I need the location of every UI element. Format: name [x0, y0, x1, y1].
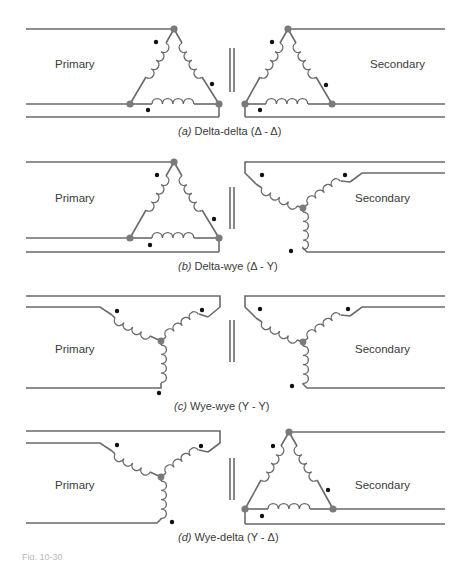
- polarity-dot: [200, 308, 204, 312]
- secondary-wye-winding: [245, 296, 445, 388]
- polarity-dot: [170, 520, 174, 524]
- polarity-dot: [115, 443, 119, 447]
- polarity-dot: [115, 309, 119, 313]
- polarity-dot: [343, 173, 347, 177]
- polarity-dot: [326, 488, 330, 492]
- polarity-dot: [154, 40, 158, 44]
- caption-tag: (b): [178, 260, 191, 272]
- transformer-core: [230, 48, 234, 92]
- panel-a-delta-delta: [26, 25, 445, 117]
- caption-d: (d) Wye-delta (Y - Δ): [178, 531, 279, 543]
- polarity-dot: [146, 108, 150, 112]
- caption-b: (b) Delta-wye (Δ - Y): [178, 260, 278, 272]
- transformer-core: [230, 458, 234, 500]
- caption-text: Wye-delta (Y - Δ): [195, 531, 279, 543]
- polarity-dot: [148, 243, 152, 247]
- caption-a: (a) Delta-delta (Δ - Δ): [178, 125, 281, 137]
- polarity-dot: [155, 173, 159, 177]
- secondary-delta-winding: [241, 428, 445, 524]
- primary-label: Primary: [55, 192, 95, 204]
- transformer-core: [230, 187, 234, 229]
- primary-wye-winding: [26, 431, 220, 524]
- panel-b-delta-wye: [26, 158, 445, 253]
- secondary-wye-winding: [245, 162, 445, 253]
- secondary-label: Secondary: [370, 58, 425, 70]
- caption-text: Delta-delta (Δ - Δ): [195, 125, 282, 137]
- panel-d-wye-delta: [26, 428, 445, 524]
- primary-delta-winding: [26, 25, 223, 117]
- secondary-label: Secondary: [355, 192, 410, 204]
- caption-tag: (d): [178, 531, 191, 543]
- primary-label: Primary: [55, 479, 95, 491]
- secondary-label: Secondary: [355, 343, 410, 355]
- polarity-dot: [199, 444, 203, 448]
- polarity-dot: [289, 249, 293, 253]
- caption-tag: (c): [174, 400, 187, 412]
- polarity-dot: [212, 217, 216, 221]
- polarity-dot: [210, 82, 214, 86]
- polarity-dot: [258, 108, 262, 112]
- caption-c: (c) Wye-wye (Y - Y): [174, 400, 269, 412]
- polarity-dot: [271, 444, 275, 448]
- primary-delta-winding: [26, 158, 223, 252]
- caption-tag: (a): [178, 125, 191, 137]
- polarity-dot: [258, 307, 262, 311]
- caption-text: Wye-wye (Y - Y): [190, 400, 270, 412]
- figure-reference: Fig. 10-30: [22, 552, 63, 560]
- caption-text: Delta-wye (Δ - Y): [195, 260, 278, 272]
- polarity-dot: [290, 384, 294, 388]
- polarity-dot: [260, 514, 264, 518]
- polarity-dot: [270, 40, 274, 44]
- primary-label: Primary: [55, 58, 95, 70]
- polarity-dot: [260, 173, 264, 177]
- secondary-label: Secondary: [355, 479, 410, 491]
- primary-label: Primary: [55, 343, 95, 355]
- polarity-dot: [324, 83, 328, 87]
- polarity-dot: [346, 307, 350, 311]
- polarity-dot: [157, 391, 161, 395]
- transformer-core: [230, 320, 234, 362]
- secondary-delta-winding: [241, 25, 445, 117]
